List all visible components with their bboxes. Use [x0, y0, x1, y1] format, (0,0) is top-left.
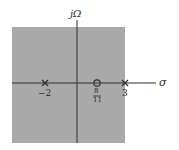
zero-label-numerator: 8	[94, 88, 98, 95]
roc-shaded-region	[12, 27, 125, 143]
vertical-axis-label: jΩ	[70, 9, 81, 19]
horizontal-axis-label: σ	[159, 77, 167, 88]
zero-label-denominator: 11	[93, 97, 102, 104]
pole-label-neg2: −2	[38, 89, 51, 98]
pole-zero-plot	[0, 0, 179, 150]
pole-label-3: 3	[122, 89, 128, 98]
